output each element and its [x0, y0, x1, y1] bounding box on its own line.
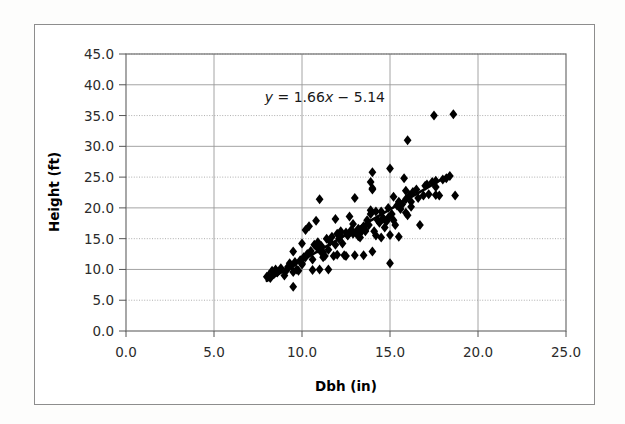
x-axis-tick-labels: 0.05.010.015.020.025.0	[115, 331, 581, 360]
y-tick-label: 35.0	[84, 108, 114, 124]
x-tick-label: 5.0	[203, 344, 224, 360]
y-axis-title: Height (ft)	[46, 152, 62, 232]
figure-outer-frame: 0.05.010.015.020.025.030.035.040.045.0 0…	[34, 24, 595, 405]
figure-root: 0.05.010.015.020.025.030.035.040.045.0 0…	[0, 0, 625, 424]
y-tick-label: 45.0	[84, 46, 114, 62]
y-tick-label: 30.0	[84, 138, 114, 154]
equation-text: y = 1.66x − 5.14	[264, 89, 385, 105]
x-tick-label: 0.0	[115, 344, 136, 360]
y-tick-label: 20.0	[84, 200, 114, 216]
y-tick-label: 0.0	[93, 323, 114, 339]
y-tick-label: 15.0	[84, 231, 114, 247]
x-tick-label: 15.0	[375, 344, 405, 360]
y-tick-label: 40.0	[84, 77, 114, 93]
regression-equation-annotation: y = 1.66x − 5.14	[264, 89, 385, 105]
x-tick-label: 20.0	[463, 344, 493, 360]
x-tick-label: 25.0	[551, 344, 581, 360]
x-axis-title: Dbh (in)	[315, 378, 377, 394]
scatter-chart: 0.05.010.015.020.025.030.035.040.045.0 0…	[35, 25, 593, 403]
y-tick-label: 10.0	[84, 261, 114, 277]
x-tick-label: 10.0	[287, 344, 317, 360]
y-tick-label: 5.0	[93, 292, 114, 308]
y-tick-label: 25.0	[84, 169, 114, 185]
y-axis-tick-labels: 0.05.010.015.020.025.030.035.040.045.0	[84, 46, 126, 339]
